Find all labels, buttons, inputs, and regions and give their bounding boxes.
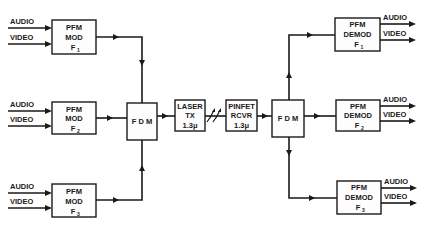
pfm-fdm-fiber-link-diagram: AUDIO VIDEO AUDIO VIDEO AUDIO VIDEO PFM …	[0, 0, 428, 230]
demod2-video-label: VIDEO	[383, 110, 407, 119]
demod3-freq-sub: 3	[362, 207, 365, 213]
demod1-line2: DEMOD	[344, 30, 373, 39]
modulator-f1: PFM MOD F 1	[52, 20, 96, 54]
modulator-f3: PFM MOD F 3	[52, 184, 96, 217]
demod3-audio-label: AUDIO	[384, 177, 408, 186]
mod3-freq: F	[71, 207, 76, 216]
mod3-line2: MOD	[65, 197, 83, 206]
mod1-line2: MOD	[65, 33, 83, 42]
demod2-freq-sub: 2	[361, 125, 364, 131]
demod1-freq-sub: 1	[361, 44, 364, 50]
demod1-freq: F	[354, 40, 359, 49]
mod2-line2: MOD	[65, 114, 83, 123]
laser-line1: LASER	[177, 102, 203, 111]
mod3-line1: PFM	[66, 187, 82, 196]
laser-line3: 1.3μ	[182, 121, 197, 130]
demod1-line1: PFM	[350, 20, 366, 29]
mod2-line1: PFM	[66, 105, 82, 114]
demod3-video-label: VIDEO	[384, 192, 408, 201]
mod2-freq-sub: 2	[77, 128, 80, 134]
mod3-freq-sub: 3	[77, 211, 80, 217]
mod3-video-label: VIDEO	[10, 197, 34, 206]
demod1-video-label: VIDEO	[383, 29, 407, 38]
optical-link-icon	[205, 108, 226, 122]
fdm-multiplexer: F D M	[127, 103, 157, 140]
mod2-freq: F	[71, 124, 76, 133]
fdm-rx-label: F D M	[278, 114, 298, 123]
mod1-freq: F	[71, 43, 76, 52]
demod2-line1: PFM	[350, 102, 366, 111]
laser-line2: TX	[185, 111, 195, 120]
mod2-audio-label: AUDIO	[10, 100, 34, 109]
rcvr-line1: PINFET	[228, 102, 255, 111]
modulator-f2: PFM MOD F 2	[52, 102, 96, 134]
fdm-demultiplexer: F D M	[272, 100, 304, 137]
demod3-line2: DEMOD	[345, 193, 374, 202]
mod3-audio-label: AUDIO	[10, 182, 34, 191]
rcvr-line3: 1.3μ	[234, 121, 249, 130]
demod2-freq: F	[355, 121, 360, 130]
mod2-video-label: VIDEO	[10, 115, 34, 124]
demodulator-f1: PFM DEMOD F 1	[335, 18, 380, 51]
mod1-video-label: VIDEO	[10, 33, 34, 42]
demod2-line2: DEMOD	[344, 111, 373, 120]
demod3-line1: PFM	[351, 183, 367, 192]
mod1-audio-label: AUDIO	[10, 17, 34, 26]
mod1-line1: PFM	[66, 23, 82, 32]
rcvr-line2: RCVR	[231, 111, 253, 120]
mod1-freq-sub: 1	[77, 47, 80, 53]
demod2-audio-label: AUDIO	[383, 95, 407, 104]
laser-transmitter: LASER TX 1.3μ	[175, 100, 205, 131]
pinfet-receiver: PINFET RCVR 1.3μ	[226, 100, 257, 131]
demodulator-f3: PFM DEMOD F 3	[337, 181, 381, 214]
demod1-audio-label: AUDIO	[383, 13, 407, 22]
demod3-freq: F	[356, 203, 361, 212]
demodulator-f2: PFM DEMOD F 2	[336, 100, 380, 131]
fdm-tx-label: F D M	[132, 117, 152, 126]
